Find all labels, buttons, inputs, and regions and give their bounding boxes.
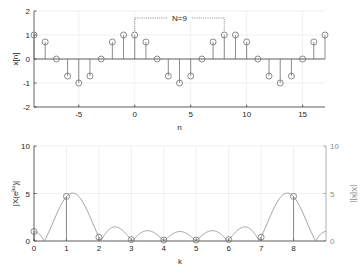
y-tick-label: -1	[23, 79, 31, 88]
x-tick-label: 1	[64, 244, 69, 253]
top-stem-plot: -5051015-2-1012nx[n]N=9	[11, 7, 328, 132]
x-tick-label: 0	[32, 244, 37, 253]
x-tick-label: 2	[97, 244, 102, 253]
x-tick-label: -5	[75, 110, 83, 119]
x-tick-label: 8	[291, 244, 296, 253]
x-tick-label: 3	[129, 244, 134, 253]
x-tick-label: 10	[242, 110, 251, 119]
x-axis-label: k	[178, 257, 183, 266]
y-tick-label-left: 10	[21, 142, 30, 151]
x-tick-label: 15	[298, 110, 307, 119]
x-axis-label: n	[177, 123, 181, 132]
x-tick-label: 7	[259, 244, 264, 253]
y-tick-label: -2	[23, 103, 31, 112]
y-tick-label: 1	[26, 31, 31, 40]
x-tick-label: 5	[194, 244, 199, 253]
y-axis-label: x[n]	[11, 53, 20, 66]
y-axis-label-right: |X[k]|	[350, 185, 359, 203]
y-tick-label: 0	[26, 55, 31, 64]
y-tick-label: 2	[26, 7, 31, 16]
period-annotation: N=9	[172, 14, 187, 23]
y-tick-label-right: 10	[330, 142, 339, 151]
dtft-curve	[34, 193, 326, 241]
x-tick-label: 6	[226, 244, 231, 253]
bottom-spectrum-plot: 01234567800551010k|X(ejω)||X[k]|	[10, 142, 359, 266]
x-tick-label: 4	[162, 244, 167, 253]
y-tick-label-right: 0	[330, 237, 335, 246]
y-tick-label-left: 0	[26, 237, 31, 246]
y-tick-label-left: 5	[26, 190, 31, 199]
figure: -5051015-2-1012nx[n]N=9 0123456780055101…	[0, 0, 362, 279]
x-tick-label: 5	[188, 110, 193, 119]
y-axis-label-left: |X(ejω)|	[10, 181, 20, 206]
y-tick-label-right: 5	[330, 190, 335, 199]
x-tick-label: 0	[133, 110, 138, 119]
